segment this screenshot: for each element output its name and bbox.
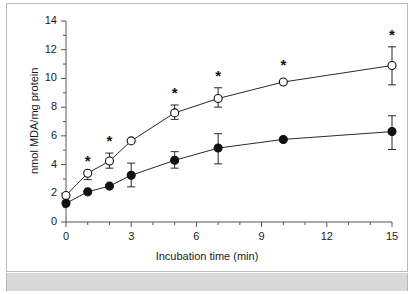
data-point-open-circle[interactable] (84, 169, 92, 177)
data-point-filled-circle[interactable] (214, 144, 222, 152)
x-axis-tick-label: 9 (248, 231, 276, 242)
significance-asterisk: * (172, 84, 178, 101)
y-axis-tick-label: 0 (51, 216, 57, 227)
significance-asterisk: * (215, 67, 221, 84)
significance-asterisk: * (85, 152, 91, 169)
data-point-filled-circle[interactable] (84, 188, 92, 196)
significance-asterisk: * (280, 56, 286, 73)
data-point-open-circle[interactable] (62, 191, 70, 199)
y-axis-tick-label: 8 (51, 101, 57, 112)
y-axis-tick-label: 4 (51, 159, 57, 170)
y-axis-label: nmol MDA/mg protein (28, 67, 40, 173)
data-point-filled-circle[interactable] (105, 182, 113, 190)
data-point-filled-circle[interactable] (62, 199, 70, 207)
series-line-filled-circle-series (66, 132, 392, 204)
x-axis-tick-label: 12 (313, 231, 341, 242)
series-line-open-circle-series (66, 66, 392, 196)
x-axis-label: Incubation time (min) (0, 250, 414, 262)
data-point-open-circle[interactable] (214, 95, 222, 103)
data-point-open-circle[interactable] (279, 78, 287, 86)
data-point-open-circle[interactable] (127, 137, 135, 145)
data-point-open-circle[interactable] (388, 62, 396, 70)
x-axis-tick-label: 0 (52, 231, 80, 242)
significance-asterisk: * (107, 132, 113, 149)
data-point-open-circle[interactable] (105, 157, 113, 165)
data-point-filled-circle[interactable] (171, 156, 179, 164)
x-axis-tick-label: 6 (182, 231, 210, 242)
data-point-filled-circle[interactable] (279, 135, 287, 143)
y-axis-tick-label: 6 (51, 130, 57, 141)
y-axis-tick-label: 12 (45, 44, 57, 55)
data-point-filled-circle[interactable] (388, 128, 396, 136)
x-axis-tick-label: 15 (378, 231, 406, 242)
data-point-open-circle[interactable] (171, 109, 179, 117)
significance-asterisk: * (389, 26, 395, 43)
y-axis-tick-label: 14 (45, 15, 57, 26)
y-axis-tick-label: 10 (45, 72, 57, 83)
x-axis-tick-label: 3 (117, 231, 145, 242)
y-axis-tick-label: 2 (51, 187, 57, 198)
data-point-filled-circle[interactable] (127, 171, 135, 179)
